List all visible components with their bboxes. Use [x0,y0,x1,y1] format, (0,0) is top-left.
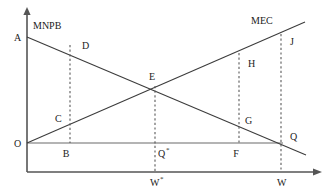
mnpb-curve-label: MNPB [33,20,62,31]
horizontal-axis-arrowhead [313,168,322,175]
point-label-d: D [82,40,89,51]
point-label-b: B [63,148,70,159]
diagram-canvas: AOMNPBDCBEHGFJQMECQ*W*W [0,0,330,192]
point-label-f: F [233,148,239,159]
point-label-q: Q [290,131,298,142]
point-label-a: A [14,32,22,43]
mec-curve [27,22,305,143]
point-label-c: C [55,113,62,124]
point-label-wstar: W [150,177,160,188]
point-label-j: J [290,36,294,47]
externality-diagram: AOMNPBDCBEHGFJQMECQ*W*W [0,0,330,192]
point-label-h: H [248,58,255,69]
mnpb-curve [27,37,306,155]
star-superscript-qstar: * [166,146,170,154]
point-labels: AOMNPBDCBEHGFJQMECQ*W*W [14,15,298,188]
point-label-o: O [14,138,21,149]
dashed-guide-lines [70,34,281,172]
vertical-axis-arrowhead [23,7,30,15]
point-label-g: G [245,115,252,126]
mec-curve-label: MEC [251,15,273,26]
axis-tick-label-w: W [277,177,287,188]
point-label-e: E [149,71,155,82]
point-label-qstar: Q [158,148,166,159]
star-superscript-wstar: * [160,175,164,183]
